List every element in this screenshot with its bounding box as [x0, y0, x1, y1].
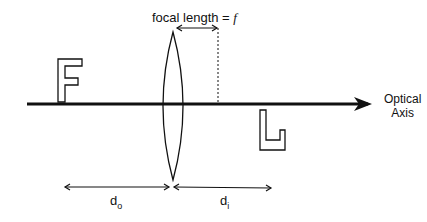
object-distance-label: do [110, 193, 122, 211]
object-distance-arrow [65, 184, 169, 190]
optical-axis-label-line2: Axis [384, 106, 421, 120]
optical-axis-label: Optical Axis [384, 92, 421, 120]
lens-diagram: focal length = f Optical Axis do di [0, 0, 427, 222]
image-distance-label: di [220, 193, 229, 211]
di-sub: i [227, 201, 229, 211]
optical-axis [27, 97, 372, 111]
optical-axis-label-line1: Optical [384, 92, 421, 106]
object-letter-f-icon [58, 59, 82, 102]
focal-length-text: focal length = [152, 10, 233, 25]
image-distance-arrow [174, 184, 271, 191]
focal-symbol: f [233, 10, 237, 25]
focal-length-label: focal length = f [152, 10, 237, 26]
do-sub: o [117, 201, 122, 211]
image-letter-inverted-f-icon [260, 110, 285, 150]
convex-lens [163, 32, 183, 180]
diagram-graphics [0, 0, 427, 222]
